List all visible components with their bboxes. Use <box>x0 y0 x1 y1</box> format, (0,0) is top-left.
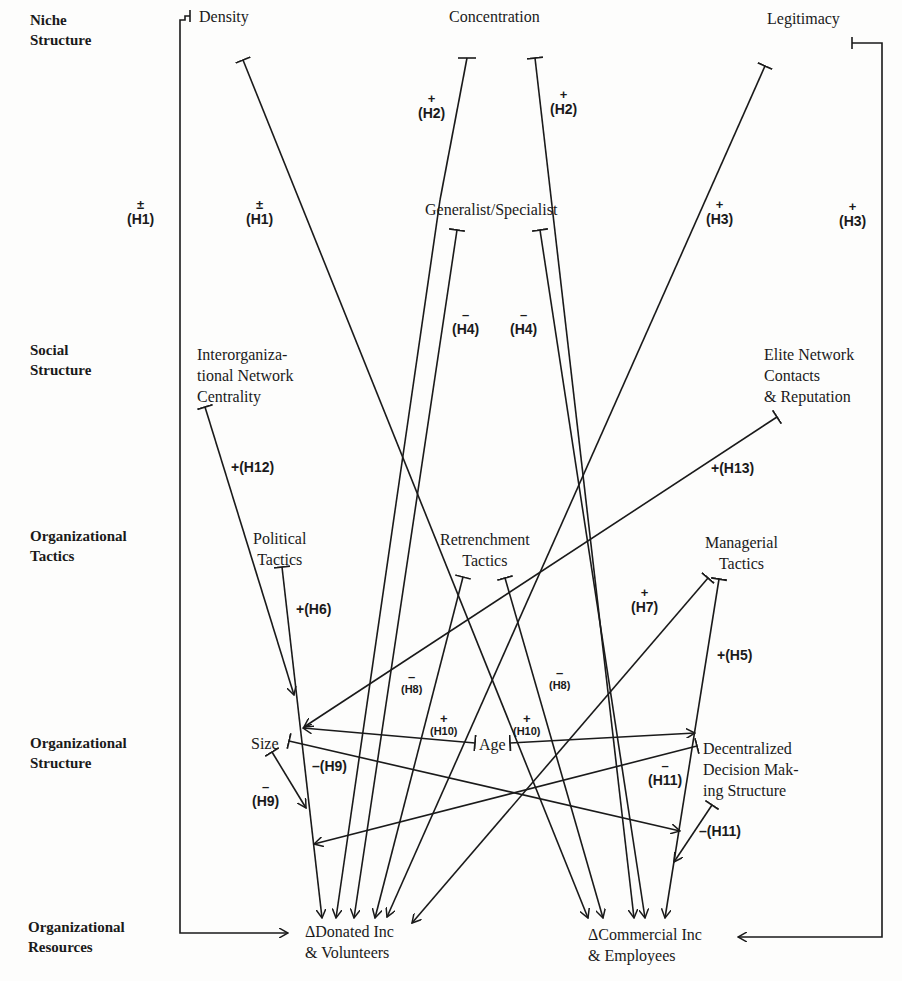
node-retrenchment-tactics: Retrenchment Tactics <box>440 529 530 571</box>
hyp-h4-left: –(H4) <box>452 309 479 337</box>
row-label-organizational-resources: Organizational Resources <box>28 917 125 957</box>
hyp-h12: +(H12) <box>231 459 274 475</box>
node-interorganizational-network-centrality: Interorganiza- tional Network Centrality <box>197 344 293 407</box>
hyp-h11-top: –(H11) <box>648 760 682 788</box>
node-political-tactics: Political Tactics <box>253 528 306 570</box>
hyp-h1-outer: ±(H1) <box>127 199 154 227</box>
hyp-h6: +(H6) <box>296 601 331 617</box>
node-density: Density <box>199 6 249 27</box>
hyp-h2-left: +(H2) <box>418 93 445 121</box>
node-concentration: Concentration <box>449 6 540 27</box>
hyp-h11-bottom: –(H11) <box>699 823 741 839</box>
edge-generalist-donated-1 <box>336 200 440 918</box>
edge-concentration-donated <box>440 58 467 200</box>
hyp-h5: +(H5) <box>717 647 752 663</box>
node-commercial-income-employees: ΔCommercial Inc & Employees <box>588 924 702 966</box>
hyp-h4-right: –(H4) <box>510 309 537 337</box>
hyp-h1-inner: ±(H1) <box>246 199 273 227</box>
node-legitimacy: Legitimacy <box>767 8 840 29</box>
hyp-h10-left: +(H10) <box>430 713 458 737</box>
row-label-organizational-tactics: Organizational Tactics <box>30 526 127 566</box>
hyp-h13: +(H13) <box>711 460 754 476</box>
hyp-h8-left: –(H8) <box>401 671 422 695</box>
hyp-h3-left: +(H3) <box>706 199 733 227</box>
node-generalist-specialist: Generalist/Specialist <box>425 199 557 220</box>
hyp-h8-right: –(H8) <box>549 667 570 691</box>
edge-legitimacy-commercial-bracket <box>738 43 882 937</box>
row-label-social-structure: Social Structure <box>30 340 91 380</box>
row-label-organizational-structure: Organizational Structure <box>30 733 127 773</box>
hyp-h9-minus: –(H9) <box>312 758 347 774</box>
edge-concentration-commercial <box>535 58 634 918</box>
node-donated-income-volunteers: ΔDonated Inc & Volunteers <box>305 921 394 963</box>
node-elite-network-contacts: Elite Network Contacts & Reputation <box>764 344 854 407</box>
node-managerial-tactics: Managerial Tactics <box>705 532 778 574</box>
hyp-h7: +(H7) <box>631 587 658 615</box>
node-size: Size <box>251 733 279 754</box>
edge-generalist-commercial <box>540 230 645 918</box>
node-decentralized-decision-making: Decentralized Decision Mak- ing Structur… <box>703 738 799 801</box>
edge-political-donated <box>282 567 322 918</box>
edge-generalist-donated-2 <box>354 230 457 918</box>
hyp-h3-right: +(H3) <box>839 201 866 229</box>
row-label-niche-structure: Niche Structure <box>30 10 91 50</box>
hyp-h9-bottom: –(H9) <box>252 781 279 809</box>
hyp-h10-right: +(H10) <box>513 713 541 737</box>
causal-diagram-canvas <box>0 0 902 981</box>
edge-retrenchment-donated <box>375 577 463 918</box>
hyp-h2-right: +(H2) <box>550 89 577 117</box>
node-age: Age <box>479 734 506 755</box>
edge-managerial-donated <box>412 578 708 923</box>
